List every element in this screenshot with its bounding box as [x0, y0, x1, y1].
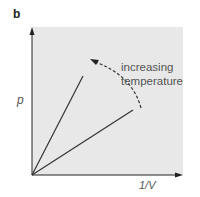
annotation: increasing temperature [121, 60, 183, 88]
annotation-line-2: temperature [121, 74, 183, 88]
annotation-line-1: increasing [121, 60, 183, 74]
x-axis-label: 1/V [139, 179, 156, 191]
y-axis-label: p [17, 93, 24, 107]
plot-background [32, 27, 183, 175]
isotherm-diagram [0, 0, 200, 197]
